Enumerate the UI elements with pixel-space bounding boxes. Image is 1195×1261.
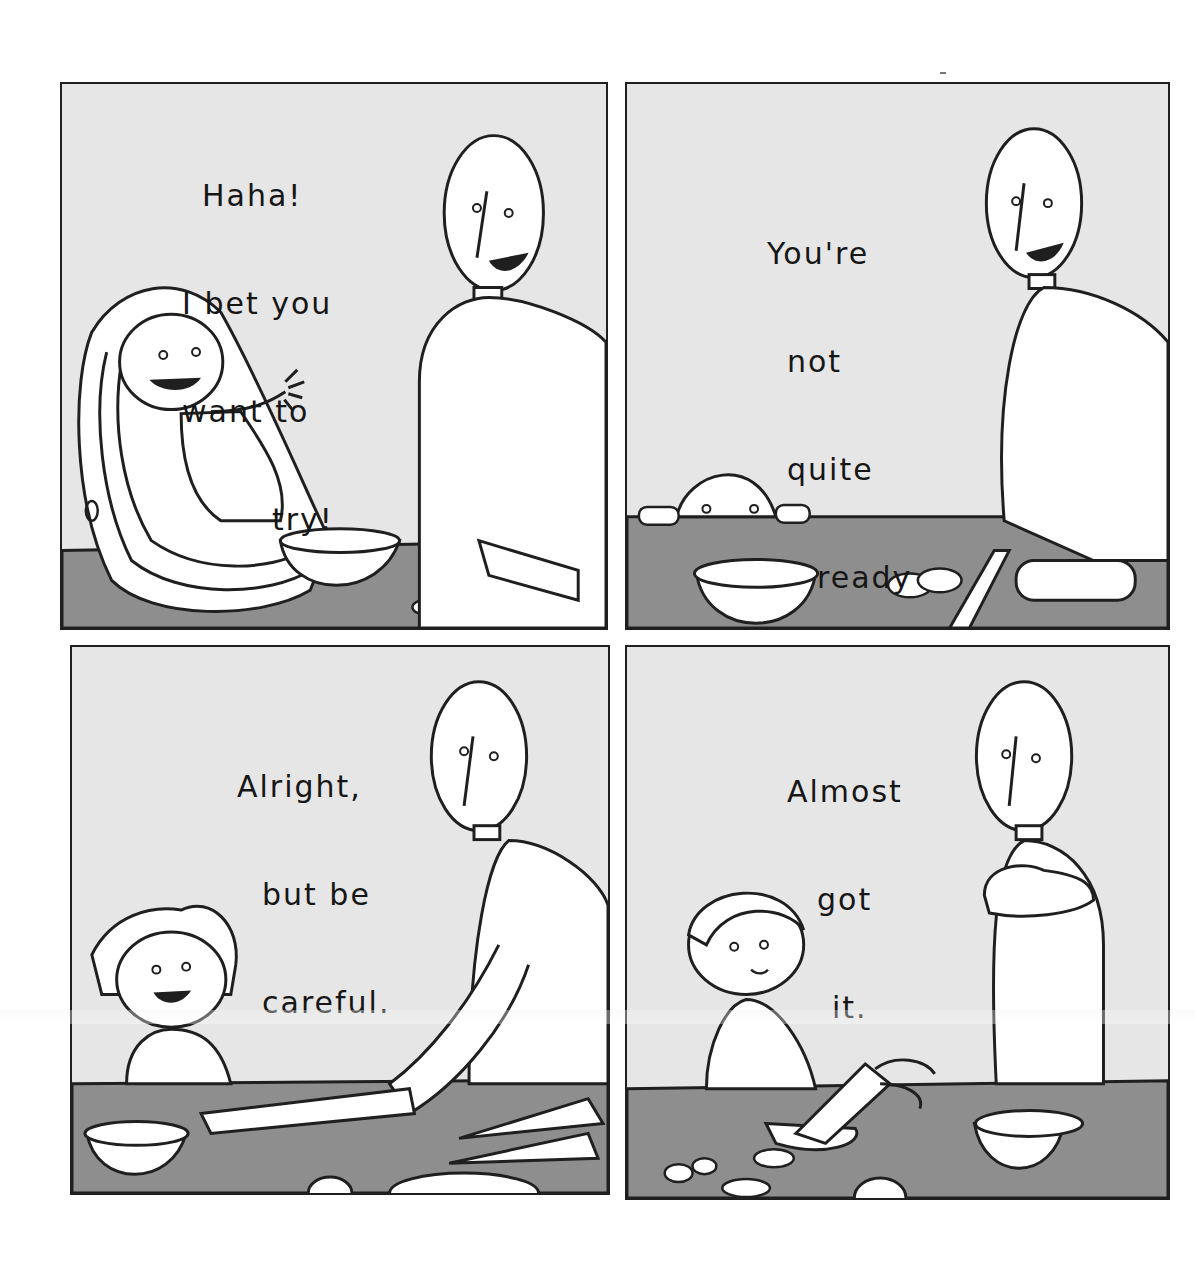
toddler-head-peeking: [677, 475, 776, 517]
speech-line: Alright,: [237, 769, 390, 805]
speech-line: ready: [817, 560, 913, 596]
father-head: [976, 682, 1071, 831]
speech-line: not: [787, 344, 913, 380]
speech-line: try!: [272, 502, 334, 538]
cucumber: [1016, 560, 1135, 600]
father-head: [444, 136, 543, 291]
panel-1-illustration: [62, 84, 606, 628]
speech-line: but be: [262, 877, 390, 913]
speech-line: Almost: [787, 774, 903, 810]
speech-text-panel-4: Almost got it.: [787, 702, 903, 1098]
child-head: [117, 932, 226, 1027]
father-head: [431, 682, 526, 831]
speech-line: quite: [787, 452, 913, 488]
speech-text-panel-3: Alright, but be careful.: [237, 697, 390, 1093]
comic-panel-2: You're not quite ready yet.: [625, 82, 1170, 630]
speech-text-panel-1: Haha! I bet you want to try!: [182, 106, 334, 610]
comic-panel-3: Alright, but be careful.: [70, 645, 610, 1195]
speech-line: want to: [182, 394, 334, 430]
comic-panel-1: Haha! I bet you want to try!: [60, 82, 608, 630]
speck: [940, 72, 946, 74]
speech-line: Haha!: [202, 178, 334, 214]
speech-line: got: [817, 882, 903, 918]
comic-panel-4: Almost got it.: [625, 645, 1170, 1200]
speech-line: careful.: [262, 985, 390, 1021]
speech-line: I bet you: [182, 286, 334, 322]
speech-line: You're: [767, 236, 913, 272]
speech-line: it.: [832, 990, 903, 1026]
speech-text-panel-2: You're not quite ready yet.: [767, 164, 913, 630]
